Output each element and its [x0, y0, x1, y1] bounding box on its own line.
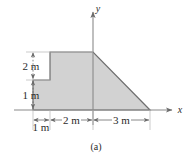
- horizontal-dimension-3m: 3 m: [94, 114, 149, 126]
- dimension-label-horizontal-2m: 2 m: [63, 114, 80, 126]
- dimension-label-horizontal-3m: 3 m: [113, 114, 130, 126]
- dimension-label-horizontal-1m: 1 m: [33, 121, 50, 133]
- shaded-region: [33, 52, 150, 110]
- vertical-dimension-2m: 2 m: [23, 53, 40, 79]
- composite-area-polygon: [33, 52, 150, 110]
- figure-container: x y 2 m 1 m 1 m: [0, 0, 193, 160]
- figure-caption: (a): [90, 141, 101, 153]
- figure-diagram: x y 2 m 1 m 1 m: [0, 0, 193, 160]
- horizontal-dimension-1m: 1 m: [33, 120, 50, 133]
- x-axis-label: x: [177, 104, 183, 115]
- dimension-label-vertical-2m: 2 m: [23, 60, 40, 72]
- horizontal-dimension-2m: 2 m: [51, 114, 92, 126]
- dimension-label-vertical-1m: 1 m: [23, 89, 40, 101]
- y-axis-label: y: [95, 3, 101, 14]
